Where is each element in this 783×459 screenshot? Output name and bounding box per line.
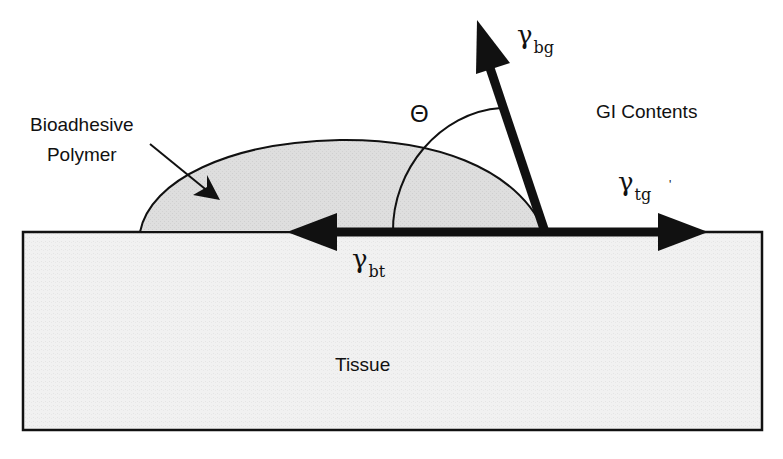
gamma-tg-label: γtg xyxy=(618,167,651,197)
tissue-block xyxy=(23,232,762,430)
theta-label: Θ xyxy=(410,100,429,128)
gamma-bg-subscript: bg xyxy=(534,38,554,57)
tissue-label: Tissue xyxy=(335,354,390,376)
gamma-bg-label: γbg xyxy=(517,20,554,50)
gi-contents-label: GI Contents xyxy=(596,101,697,123)
tick-mark: ' xyxy=(669,178,671,192)
gamma-bt-subscript: bt xyxy=(369,262,386,281)
gamma-tg-subscript: tg xyxy=(635,185,652,204)
gamma-bt-label: γbt xyxy=(352,244,385,274)
bioadhesive-polymer-label: Bioadhesive Polymer xyxy=(30,110,134,170)
gamma-symbol: γ xyxy=(618,167,634,197)
bioadhesive-label-line2: Polymer xyxy=(30,140,134,170)
gamma-symbol: γ xyxy=(517,20,533,50)
contact-angle-diagram xyxy=(0,0,783,459)
gamma-symbol: γ xyxy=(352,244,368,274)
bioadhesive-label-line1: Bioadhesive xyxy=(30,110,134,140)
gamma-bg-arrowhead xyxy=(476,20,510,74)
